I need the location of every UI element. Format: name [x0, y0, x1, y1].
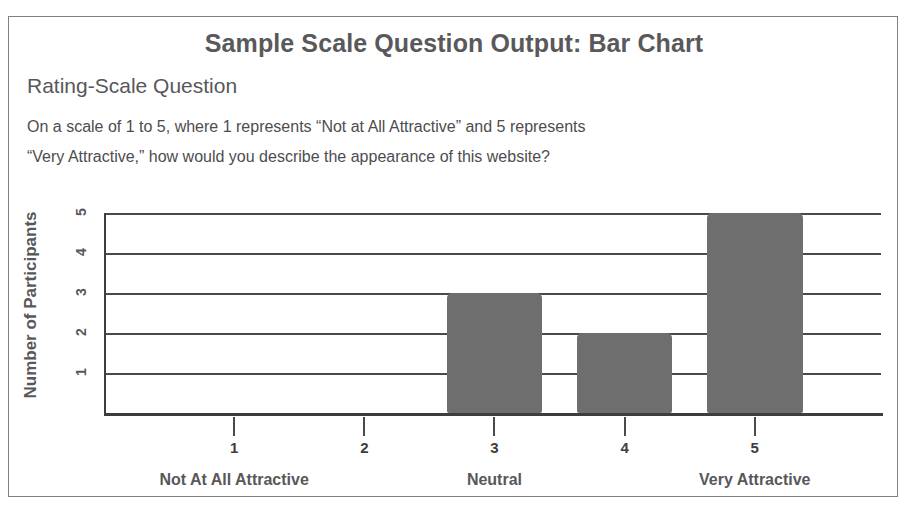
page-title: Sample Scale Question Output: Bar Chart: [9, 29, 899, 58]
y-tick-label: 1: [73, 357, 89, 387]
x-tick-label: 5: [735, 439, 775, 456]
x-axis-line: [104, 413, 883, 416]
y-tick-label: 2: [73, 317, 89, 347]
y-tick-label: 4: [73, 237, 89, 267]
screenshot-root: Sample Scale Question Output: Bar Chart …: [0, 0, 909, 508]
y-tick-label: 3: [73, 277, 89, 307]
x-tick-label: 1: [214, 439, 254, 456]
question-text-line-2: “Very Attractive,” how would you describ…: [27, 148, 550, 166]
x-tick-label: 3: [474, 439, 514, 456]
scale-anchor-label: Not At All Attractive: [84, 471, 384, 489]
y-axis-line: [104, 213, 106, 415]
chart-card-frame: Sample Scale Question Output: Bar Chart …: [8, 16, 898, 497]
x-tick-mark: [624, 417, 626, 436]
bar-chart: Number of Participants 1234512345Not At …: [9, 177, 899, 497]
x-tick-mark: [363, 417, 365, 436]
x-tick-mark: [233, 417, 235, 436]
bar-4: [577, 333, 673, 413]
x-tick-mark: [493, 417, 495, 436]
x-tick-label: 4: [605, 439, 645, 456]
question-text-line-1: On a scale of 1 to 5, where 1 represents…: [27, 118, 586, 136]
x-tick-mark: [754, 417, 756, 436]
scale-anchor-label: Very Attractive: [605, 471, 905, 489]
question-type-label: Rating-Scale Question: [27, 74, 237, 98]
scale-anchor-label: Neutral: [344, 471, 644, 489]
bar-3: [447, 293, 543, 413]
y-tick-label: 5: [73, 197, 89, 227]
bar-5: [707, 213, 803, 413]
x-tick-label: 2: [344, 439, 384, 456]
y-axis-title: Number of Participants: [21, 205, 41, 405]
